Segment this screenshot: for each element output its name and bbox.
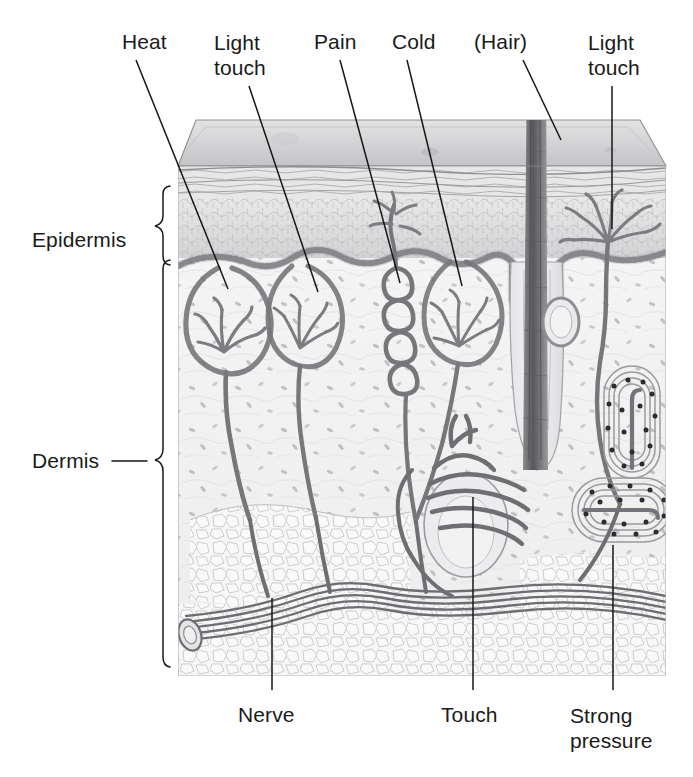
- label-light-touch-1: Light touch: [214, 30, 266, 80]
- label-cold: Cold: [392, 30, 436, 54]
- label-nerve: Nerve: [238, 703, 295, 727]
- sebaceous-gland: [543, 298, 579, 346]
- brace-dermis: [155, 260, 170, 667]
- skin-cross-section-illustration: [0, 0, 693, 777]
- label-touch: Touch: [441, 703, 498, 727]
- figure-root: Heat Light touch Pain Cold (Hair) Light …: [0, 0, 693, 777]
- label-hair: (Hair): [474, 30, 527, 54]
- layer-braces: [112, 186, 170, 667]
- label-epidermis: Epidermis: [32, 228, 126, 252]
- label-heat: Heat: [122, 30, 167, 54]
- stratum-corneum: [178, 166, 666, 198]
- label-pain: Pain: [314, 30, 356, 54]
- label-strong-pressure: Strong pressure: [570, 703, 653, 753]
- hair-shaft: [523, 60, 548, 470]
- label-light-touch-2: Light touch: [588, 30, 640, 80]
- skin-surface-face: [178, 120, 666, 166]
- brace-epidermis: [155, 186, 170, 265]
- label-dermis: Dermis: [32, 449, 99, 473]
